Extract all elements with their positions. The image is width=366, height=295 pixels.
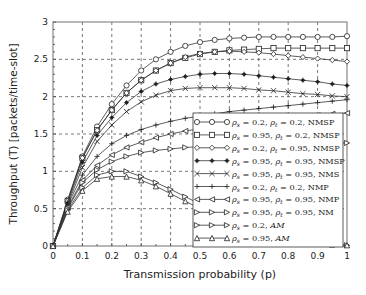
x-tick-label: 0.5 bbox=[193, 251, 207, 261]
y-tick-label: 1 bbox=[42, 166, 48, 176]
legend: ρs = 0.2, ρt = 0.2, NMSPρs = 0.95, ρt = … bbox=[193, 113, 345, 247]
x-tick-label: 0.7 bbox=[252, 251, 266, 261]
x-tick-label: 0.2 bbox=[105, 251, 119, 261]
throughput-chart: 00.10.20.30.40.50.60.70.80.91 00.511.522… bbox=[0, 0, 366, 295]
y-tick-label: 1.5 bbox=[34, 129, 48, 139]
y-tick-label: 3 bbox=[42, 17, 48, 27]
x-tick-label: 0.3 bbox=[134, 251, 148, 261]
y-tick-label: 2 bbox=[42, 92, 48, 102]
x-tick-label: 0 bbox=[50, 251, 56, 261]
svg-text:ρs = 0.95, ρt = 0.95, NMS: ρs = 0.95, ρt = 0.95, NMS bbox=[231, 169, 340, 180]
svg-text:ρs = 0.2, ρt = 0.2, NMP: ρs = 0.2, ρt = 0.2, NMP bbox=[231, 182, 329, 193]
x-tick-labels: 00.10.20.30.40.50.60.70.80.91 bbox=[50, 251, 350, 261]
svg-text:ρs = 0.2, ρt = 0.95, NMSP: ρs = 0.2, ρt = 0.95, NMSP bbox=[231, 143, 340, 154]
x-tick-label: 0.6 bbox=[222, 251, 237, 261]
x-tick-label: 1 bbox=[344, 251, 350, 261]
x-axis-label: Transmission probability (p) bbox=[123, 268, 276, 281]
y-tick-labels: 00.511.522.53 bbox=[34, 17, 49, 251]
svg-text:ρs = 0.95, ρt = 0.95, NMSP: ρs = 0.95, ρt = 0.95, NMSP bbox=[231, 156, 345, 167]
svg-text:ρs = 0.95, ρt = 0.95, NMP: ρs = 0.95, ρt = 0.95, NMP bbox=[231, 194, 340, 205]
y-tick-label: 0.5 bbox=[34, 204, 48, 214]
svg-text:ρs = 0.95, ρt = 0.2, NMSP: ρs = 0.95, ρt = 0.2, NMSP bbox=[231, 130, 340, 141]
svg-text:ρs = 0.2, AM: ρs = 0.2, AM bbox=[231, 220, 285, 231]
svg-text:ρs = 0.95, AM: ρs = 0.95, AM bbox=[231, 233, 290, 244]
x-tick-label: 0.4 bbox=[163, 251, 178, 261]
x-tick-label: 0.8 bbox=[281, 251, 296, 261]
x-tick-label: 0.1 bbox=[75, 251, 89, 261]
svg-text:ρs = 0.2, ρt = 0.2, NMSP: ρs = 0.2, ρt = 0.2, NMSP bbox=[231, 117, 335, 128]
x-tick-label: 0.9 bbox=[310, 251, 325, 261]
y-tick-label: 0 bbox=[42, 241, 48, 251]
svg-text:ρs = 0.95, ρt = 0.95, NM: ρs = 0.95, ρt = 0.95, NM bbox=[231, 207, 334, 218]
y-axis-label: Throughput (T) [packets/time-slot] bbox=[7, 43, 19, 225]
y-tick-label: 2.5 bbox=[34, 54, 48, 64]
